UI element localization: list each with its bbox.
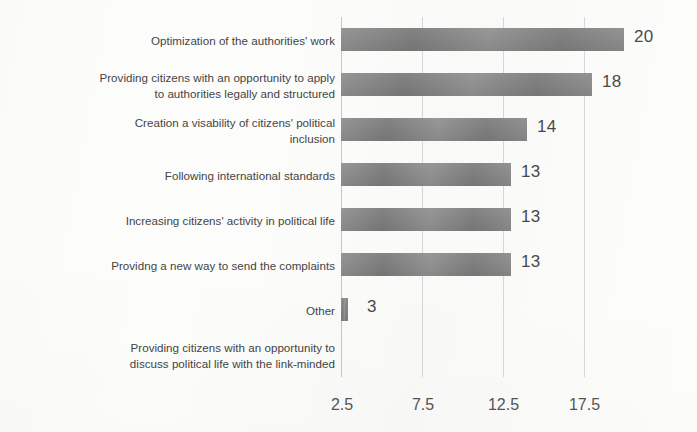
bar-5[interactable] — [341, 253, 511, 276]
category-label-5: Providng a new way to send the complaint… — [35, 258, 335, 274]
bar-2[interactable] — [341, 118, 527, 141]
bar-row-0: 20 — [341, 17, 641, 62]
category-label-7: Providing citizens with an opportunity t… — [35, 340, 335, 371]
bar-row-3: 13 — [341, 152, 641, 197]
bar-row-1: 18 — [341, 62, 641, 107]
x-tick-label-2: 12.5 — [481, 396, 526, 414]
bar-row-5: 13 — [341, 242, 641, 287]
bar-value-6: 3 — [367, 297, 377, 317]
bar-4[interactable] — [341, 208, 511, 231]
bar-row-4: 13 — [341, 197, 641, 242]
x-tick-label-3: 17.5 — [562, 396, 607, 414]
bar-value-5: 13 — [521, 252, 540, 272]
bar-row-7 — [341, 332, 641, 377]
bar-6[interactable] — [341, 298, 348, 321]
bar-row-2: 14 — [341, 107, 641, 152]
x-tick-label-0: 2.5 — [322, 396, 362, 414]
category-label-2: Creation a visability of citizens' polit… — [35, 115, 335, 146]
category-label-0: Optimization of the authorities' work — [35, 33, 335, 49]
category-label-4: Increasing citizens' activity in politic… — [35, 213, 335, 229]
bar-3[interactable] — [341, 163, 511, 186]
category-label-3: Following international standards — [35, 168, 335, 184]
bar-0[interactable] — [341, 28, 624, 51]
horizontal-bar-chart: Optimization of the authorities' work Pr… — [0, 0, 697, 432]
bar-value-4: 13 — [521, 207, 540, 227]
category-label-6: Other — [35, 303, 335, 319]
bar-value-3: 13 — [521, 162, 540, 182]
bar-value-0: 20 — [634, 27, 653, 47]
bar-row-6: 3 — [341, 287, 641, 332]
bar-value-2: 14 — [537, 117, 556, 137]
x-tick-label-1: 7.5 — [403, 396, 443, 414]
plot-area: 20 18 14 13 13 13 3 — [341, 17, 641, 377]
bar-value-1: 18 — [602, 72, 621, 92]
category-label-1: Providing citizens with an opportunity t… — [35, 70, 335, 101]
bar-1[interactable] — [341, 73, 592, 96]
